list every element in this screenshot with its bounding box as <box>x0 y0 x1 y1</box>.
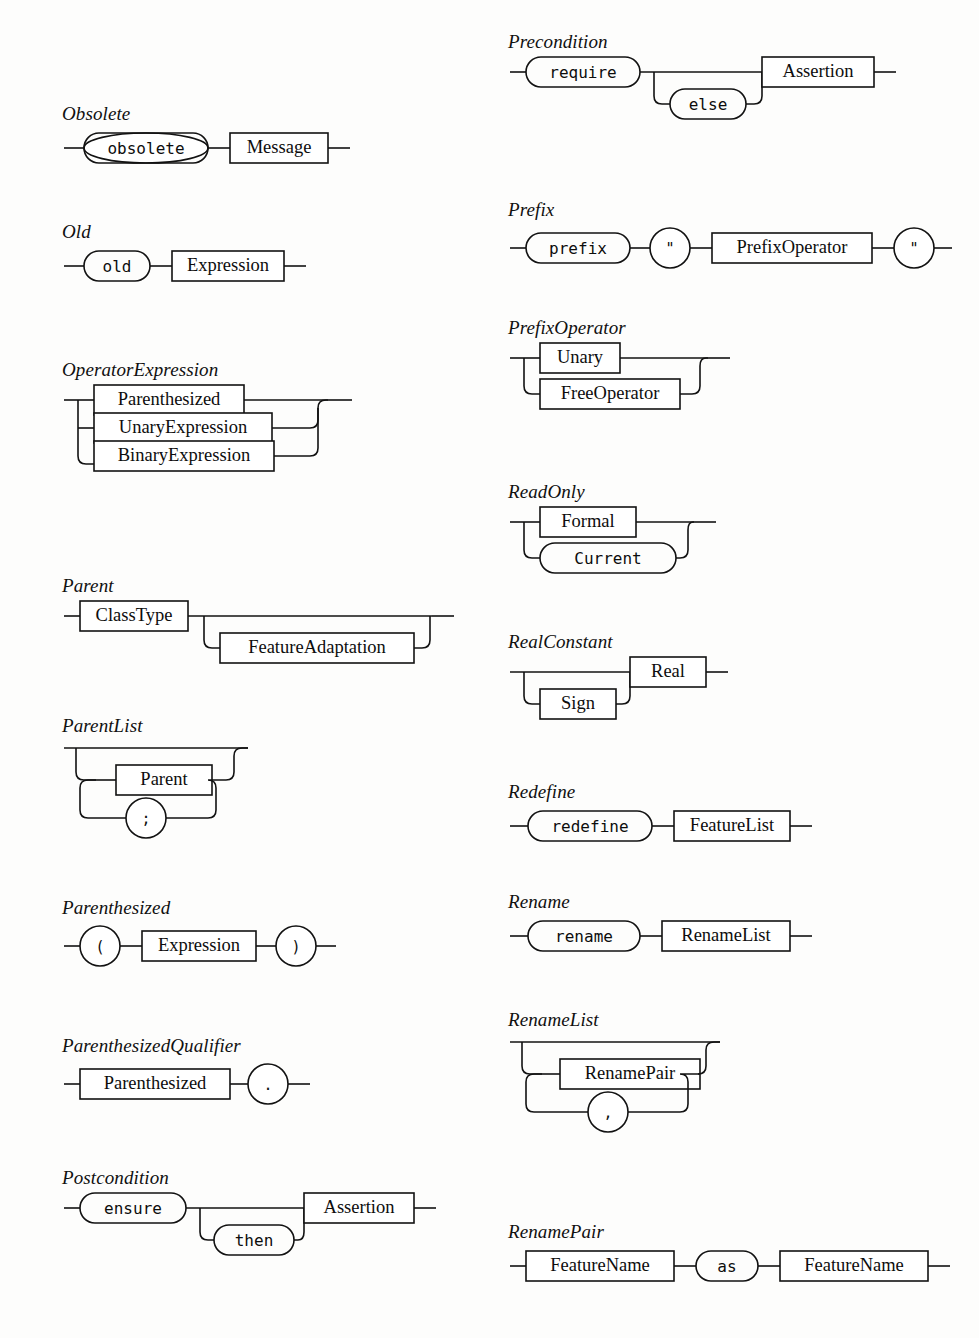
rule-name-parenthesized-qualifier: ParenthesizedQualifier <box>62 1036 342 1056</box>
choice-terminal-current: Current <box>574 549 641 568</box>
rule-name-obsolete: Obsolete <box>62 104 362 124</box>
terminal-as: as <box>717 1257 736 1276</box>
diagram-parent-list: Parent ; <box>62 736 312 854</box>
rule-parent-list: ParentList Parent ; <box>62 716 312 854</box>
separator-semicolon: ; <box>141 810 150 828</box>
repeat-item-rename-pair: RenamePair <box>585 1063 675 1083</box>
rule-name-rename-pair: RenamePair <box>508 1222 958 1242</box>
rule-obsolete: Obsolete obsolete Message <box>62 104 362 172</box>
rule-name-old: Old <box>62 222 332 242</box>
terminal-obsolete: obsolete <box>107 139 184 158</box>
diagram-postcondition: ensure then Assertion <box>62 1188 462 1274</box>
rule-prefix: Prefix prefix " PrefixOperator " <box>508 200 958 276</box>
diagram-real-constant: Sign Real <box>508 652 758 738</box>
rule-rename-list: RenameList RenamePair , <box>508 1010 778 1148</box>
rule-operator-expression: OperatorExpression Parenthesized UnaryEx… <box>62 360 372 494</box>
nonterminal-feature-list: FeatureList <box>690 815 775 835</box>
rule-name-real-constant: RealConstant <box>508 632 758 652</box>
diagram-read-only: Formal Current <box>508 502 768 588</box>
diagram-obsolete: obsolete Message <box>62 124 362 172</box>
rule-parenthesized-qualifier: ParenthesizedQualifier Parenthesized . <box>62 1036 342 1112</box>
rule-parenthesized: Parenthesized ( Expression ) <box>62 898 372 974</box>
nonterminal-rename-list: RenameList <box>681 925 771 945</box>
optional-terminal-then: then <box>235 1231 274 1250</box>
rule-name-rename: Rename <box>508 892 838 912</box>
diagram-redefine: redefine FeatureList <box>508 802 838 850</box>
rule-name-rename-list: RenameList <box>508 1010 778 1030</box>
rule-parent: Parent ClassType FeatureAdaptation <box>62 576 462 678</box>
terminal-prefix: prefix <box>549 239 607 258</box>
nonterminal-class-type: ClassType <box>96 605 173 625</box>
rule-rename: Rename rename RenameList <box>508 892 838 960</box>
nonterminal-feature-name-target: FeatureName <box>804 1255 904 1275</box>
diagram-operator-expression: Parenthesized UnaryExpression BinaryExpr… <box>62 380 372 494</box>
rule-rename-pair: RenamePair FeatureName as FeatureName <box>508 1222 958 1290</box>
rule-precondition: Precondition require else Assertion <box>508 32 918 138</box>
terminal-lparen: ( <box>95 938 104 956</box>
nonterminal-feature-name-source: FeatureName <box>550 1255 650 1275</box>
choice-unary-expression: UnaryExpression <box>119 417 247 437</box>
nonterminal-parenthesized: Parenthesized <box>104 1073 207 1093</box>
rule-name-precondition: Precondition <box>508 32 918 52</box>
nonterminal-real: Real <box>651 661 685 681</box>
optional-terminal-else: else <box>689 95 728 114</box>
rule-postcondition: Postcondition ensure then Assertion <box>62 1168 462 1274</box>
nonterminal-expression: Expression <box>158 935 240 955</box>
diagram-rename: rename RenameList <box>508 912 838 960</box>
diagram-parenthesized-qualifier: Parenthesized . <box>62 1056 342 1112</box>
rule-name-parent-list: ParentList <box>62 716 312 736</box>
terminal-ensure: ensure <box>104 1199 162 1218</box>
rule-name-parent: Parent <box>62 576 462 596</box>
choice-free-operator: FreeOperator <box>561 383 660 403</box>
choice-binary-expression: BinaryExpression <box>118 445 251 465</box>
choice-unary: Unary <box>557 347 604 367</box>
rule-name-prefix-operator: PrefixOperator <box>508 318 768 338</box>
syntax-diagram-page: Obsolete obsolete Message Old old Expres… <box>0 0 979 1338</box>
terminal-rename: rename <box>555 927 613 946</box>
rule-name-read-only: ReadOnly <box>508 482 768 502</box>
choice-formal: Formal <box>561 511 614 531</box>
rule-prefix-operator: PrefixOperator Unary FreeOperator <box>508 318 768 424</box>
terminal-require: require <box>549 63 616 82</box>
diagram-prefix-operator: Unary FreeOperator <box>508 338 768 424</box>
rule-name-operator-expression: OperatorExpression <box>62 360 372 380</box>
rule-name-prefix: Prefix <box>508 200 958 220</box>
nonterminal-assertion: Assertion <box>783 61 854 81</box>
rule-old: Old old Expression <box>62 222 332 290</box>
separator-comma: , <box>603 1104 612 1122</box>
rule-real-constant: RealConstant Sign Real <box>508 632 758 738</box>
diagram-parenthesized: ( Expression ) <box>62 918 372 974</box>
diagram-parent: ClassType FeatureAdaptation <box>62 596 462 678</box>
terminal-old: old <box>103 257 132 276</box>
choice-parenthesized: Parenthesized <box>118 389 221 409</box>
terminal-redefine: redefine <box>551 817 628 836</box>
diagram-rename-list: RenamePair , <box>508 1030 778 1148</box>
rule-read-only: ReadOnly Formal Current <box>508 482 768 588</box>
nonterminal-expression: Expression <box>187 255 269 275</box>
diagram-rename-pair: FeatureName as FeatureName <box>508 1242 958 1290</box>
terminal-quote-open: " <box>665 240 674 258</box>
nonterminal-assertion: Assertion <box>324 1197 395 1217</box>
rule-name-redefine: Redefine <box>508 782 838 802</box>
terminal-dot: . <box>263 1076 272 1094</box>
diagram-old: old Expression <box>62 242 332 290</box>
optional-feature-adaptation: FeatureAdaptation <box>248 637 386 657</box>
rule-redefine: Redefine redefine FeatureList <box>508 782 838 850</box>
nonterminal-prefix-operator: PrefixOperator <box>737 237 848 257</box>
repeat-item-parent: Parent <box>140 769 188 789</box>
rule-name-parenthesized: Parenthesized <box>62 898 372 918</box>
diagram-prefix: prefix " PrefixOperator " <box>508 220 958 276</box>
diagram-precondition: require else Assertion <box>508 52 918 138</box>
rule-name-postcondition: Postcondition <box>62 1168 462 1188</box>
optional-sign: Sign <box>561 693 595 713</box>
terminal-rparen: ) <box>291 938 300 956</box>
terminal-quote-close: " <box>909 240 918 258</box>
nonterminal-message: Message <box>247 137 312 157</box>
